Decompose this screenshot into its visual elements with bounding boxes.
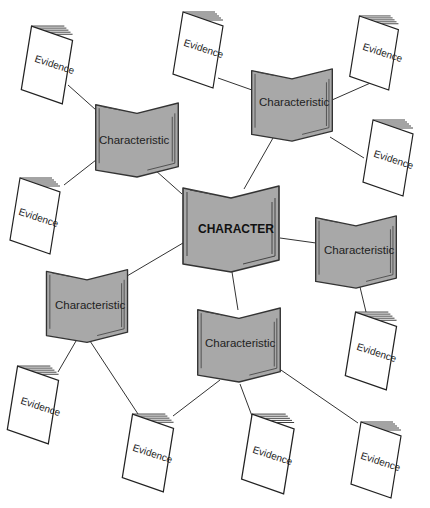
evidence-page-icon <box>7 366 58 444</box>
evidence-page-icon <box>350 16 399 90</box>
evidence-page-icon <box>21 26 72 104</box>
evidence-page-icon <box>173 12 223 88</box>
evidence-page-icon <box>351 422 401 498</box>
evidence-page-icon <box>122 414 173 492</box>
evidence-page-icon <box>345 312 396 390</box>
characteristic-book-icon <box>198 308 281 382</box>
evidence-page-icon <box>242 414 295 494</box>
characteristic-book-icon <box>252 69 333 141</box>
evidence-page-icon <box>10 178 60 254</box>
evidence-page-icon <box>363 120 413 196</box>
character-map-diagram: CHARACTER Characteristic Characteristic … <box>0 0 430 508</box>
character-book-icon <box>183 186 279 272</box>
characteristic-book-icon <box>316 216 397 288</box>
characteristic-book-icon <box>46 270 127 343</box>
characteristic-book-icon <box>96 103 179 177</box>
